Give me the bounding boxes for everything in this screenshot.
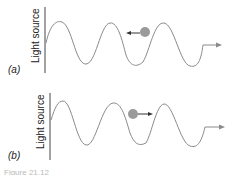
panel-b: Light source (b): [0, 85, 232, 175]
panel-tag: (a): [8, 64, 20, 75]
panel-a: Light source (a): [0, 0, 232, 85]
particle-icon: [140, 27, 150, 37]
arrow-left-icon: [126, 31, 131, 35]
light-wave: [46, 22, 218, 67]
arrow-right-icon: [148, 112, 153, 116]
wave-direction-arrow-icon: [219, 125, 225, 130]
axis-label: Light source: [35, 95, 46, 149]
particle-icon: [128, 109, 138, 119]
axis-label: Light source: [30, 9, 41, 63]
light-wave: [51, 101, 220, 147]
figure-caption: Figure 21.12: [4, 168, 49, 175]
wave-direction-arrow-icon: [216, 43, 222, 48]
panel-tag: (b): [8, 150, 20, 161]
